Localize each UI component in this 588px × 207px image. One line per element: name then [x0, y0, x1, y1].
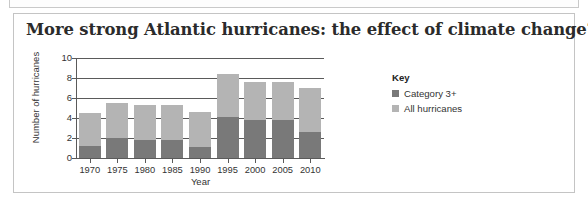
y-tick-label: 0 [42, 153, 72, 163]
bar-category-3-plus [134, 140, 156, 158]
page-title: More strong Atlantic hurricanes: the eff… [26, 20, 566, 39]
chart-card: More strong Atlantic hurricanes: the eff… [13, 13, 575, 193]
bar-column [272, 58, 294, 158]
legend-swatch-icon [392, 90, 399, 97]
bar-category-3-plus [217, 117, 239, 159]
x-tick [310, 158, 311, 163]
chart-legend: Key Category 3+All hurricanes [392, 72, 552, 118]
legend-items: Category 3+All hurricanes [392, 88, 552, 114]
bar-category-3-plus [244, 120, 266, 159]
legend-item: All hurricanes [392, 103, 552, 114]
legend-swatch-icon [392, 105, 399, 112]
legend-label: All hurricanes [404, 103, 462, 114]
bar-group [76, 58, 324, 158]
x-tick [255, 158, 256, 163]
bar-category-3-plus [189, 147, 211, 158]
bar-column [244, 58, 266, 158]
x-axis-line: 197019751980198519901995200020052010 [76, 158, 325, 159]
x-tick-label: 2010 [292, 165, 328, 175]
y-tick-label: 4 [42, 113, 72, 123]
bar-column [161, 58, 183, 158]
bar-category-3-plus [161, 140, 183, 159]
y-axis-label: Number of hurricanes [30, 43, 41, 153]
x-tick [200, 158, 201, 163]
x-axis-label: Year [76, 176, 325, 187]
x-tick [228, 158, 229, 163]
y-tick-label: 6 [42, 93, 72, 103]
legend-title: Key [392, 72, 552, 83]
bar-column [106, 58, 128, 158]
legend-item: Category 3+ [392, 88, 552, 99]
top-cutoff-strip [9, 0, 579, 8]
bar-column [299, 58, 321, 158]
y-tick-label: 10 [42, 53, 72, 63]
x-tick [283, 158, 284, 163]
bar-category-3-plus [106, 138, 128, 158]
bar-chart: Number of hurricanes 0246810 19701975198… [14, 44, 576, 194]
x-tick [145, 158, 146, 163]
bar-column [134, 58, 156, 158]
plot-area: 0246810 [76, 58, 324, 158]
x-tick [90, 158, 91, 163]
x-tick [172, 158, 173, 163]
y-tick-label: 8 [42, 73, 72, 83]
bar-column [79, 58, 101, 158]
legend-label: Category 3+ [404, 88, 457, 99]
bar-column [189, 58, 211, 158]
bar-category-3-plus [79, 146, 101, 158]
bar-category-3-plus [299, 132, 321, 159]
bar-column [217, 58, 239, 158]
bar-category-3-plus [272, 120, 294, 158]
x-tick [117, 158, 118, 163]
screenshot-root: More strong Atlantic hurricanes: the eff… [0, 0, 588, 207]
y-tick-label: 2 [42, 133, 72, 143]
